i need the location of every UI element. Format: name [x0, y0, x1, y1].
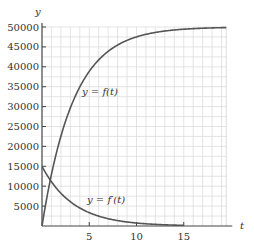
svg-text:40000: 40000 — [7, 61, 39, 72]
svg-text:15: 15 — [177, 231, 190, 242]
svg-text:15000: 15000 — [7, 161, 39, 172]
f-prime-curve-label: y = f′(t) — [86, 194, 125, 205]
svg-text:20000: 20000 — [7, 141, 39, 152]
f-curve-label: y = f(t) — [81, 86, 118, 97]
svg-text:10000: 10000 — [7, 181, 39, 192]
chart: 5000100001500020000250003000035000400004… — [0, 0, 254, 243]
svg-text:45000: 45000 — [7, 41, 39, 52]
svg-text:50000: 50000 — [7, 22, 39, 33]
svg-text:25000: 25000 — [7, 121, 39, 132]
svg-text:5000: 5000 — [14, 201, 39, 212]
y-axis-label: y — [34, 6, 41, 17]
svg-text:10: 10 — [130, 231, 143, 242]
svg-text:30000: 30000 — [7, 101, 39, 112]
x-axis-label: t — [240, 220, 245, 231]
svg-text:5: 5 — [86, 231, 92, 242]
svg-text:35000: 35000 — [7, 81, 39, 92]
grid — [42, 27, 226, 226]
